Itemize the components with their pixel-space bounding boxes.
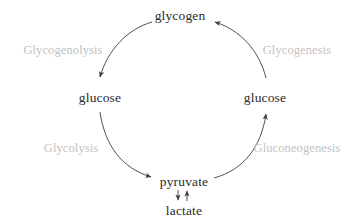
- arrow-glucose-right-to-glycogen: [215, 22, 266, 78]
- node-pyruvate: pyruvate: [160, 175, 208, 189]
- process-label-glycogenesis: Glycogenesis: [263, 44, 332, 57]
- arrow-glycogen-to-glucose-left: [100, 22, 152, 77]
- process-label-gluconeogenesis: Gluconeogenesis: [254, 142, 341, 155]
- node-lactate: lactate: [166, 204, 202, 218]
- node-glucose-left: glucose: [79, 91, 121, 105]
- node-glucose-right: glucose: [244, 91, 286, 105]
- node-glycogen: glycogen: [155, 9, 206, 23]
- arrow-glucose-left-to-pyruvate: [100, 112, 151, 177]
- process-label-glycolysis: Glycolysis: [44, 142, 98, 155]
- process-label-glycogenolysis: Glycogenolysis: [23, 44, 102, 57]
- diagram-canvas: glycogen glucose glucose pyruvate lactat…: [0, 0, 360, 222]
